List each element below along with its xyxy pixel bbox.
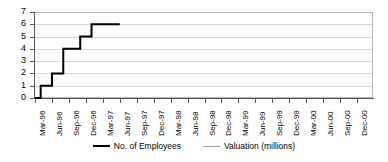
y-axis-tick bbox=[30, 12, 34, 13]
y-axis-tick bbox=[30, 37, 34, 38]
x-axis-tick-label: Sep-98 bbox=[209, 110, 217, 136]
plot-area bbox=[34, 12, 373, 98]
y-axis-tick-label: 0 bbox=[0, 93, 29, 102]
x-axis-tick-label: Jun-99 bbox=[259, 112, 267, 136]
legend-label-employees: No. of Employees bbox=[114, 142, 181, 151]
x-axis-tick bbox=[340, 99, 341, 103]
x-axis-tick bbox=[188, 99, 189, 103]
x-axis-tick-label: Dec-99 bbox=[293, 110, 301, 136]
x-axis-tick bbox=[221, 99, 222, 103]
gridline bbox=[35, 86, 372, 87]
x-axis-tick bbox=[35, 99, 36, 103]
y-axis-line bbox=[34, 12, 35, 99]
y-axis-tick-label: 1 bbox=[0, 81, 29, 90]
y-axis-tick-label: 6 bbox=[0, 19, 29, 28]
x-axis-tick bbox=[52, 99, 53, 103]
x-axis-tick-label: Dec-00 bbox=[361, 110, 369, 136]
x-axis-tick-label: Sep-99 bbox=[276, 110, 284, 136]
x-axis-tick-label: Mar-99 bbox=[242, 111, 250, 136]
x-axis-tick-label: Jun-00 bbox=[327, 112, 335, 136]
x-axis-tick bbox=[306, 99, 307, 103]
x-axis-tick bbox=[120, 99, 121, 103]
y-axis-tick bbox=[30, 49, 34, 50]
x-axis-tick bbox=[86, 99, 87, 103]
x-axis-tick bbox=[205, 99, 206, 103]
x-axis-tick-label: Dec-98 bbox=[225, 110, 233, 136]
x-axis-tick bbox=[272, 99, 273, 103]
x-axis-tick bbox=[154, 99, 155, 103]
x-axis-tick bbox=[69, 99, 70, 103]
x-axis-tick-label: Mar-96 bbox=[39, 111, 47, 136]
x-axis-tick bbox=[255, 99, 256, 103]
x-axis-tick-label: Dec-96 bbox=[90, 110, 98, 136]
x-axis-tick bbox=[357, 99, 358, 103]
x-axis-tick-label: Mar-97 bbox=[107, 111, 115, 136]
x-axis-tick bbox=[238, 99, 239, 103]
x-axis-tick-label: Mar-00 bbox=[310, 111, 318, 136]
y-axis-tick bbox=[30, 86, 34, 87]
x-axis-tick-label: Dec-97 bbox=[158, 110, 166, 136]
gridline bbox=[35, 61, 372, 62]
y-axis-tick bbox=[30, 24, 34, 25]
x-axis-tick-label: Jun-98 bbox=[192, 112, 200, 136]
y-axis-tick bbox=[30, 73, 34, 74]
x-axis-tick-label: Jun-96 bbox=[56, 112, 64, 136]
legend-label-valuation: Valuation (millions) bbox=[224, 142, 295, 151]
y-axis-tick-label: 2 bbox=[0, 68, 29, 77]
x-axis-tick-label: Sep-97 bbox=[141, 110, 149, 136]
chart-legend: No. of Employees Valuation (millions) bbox=[0, 139, 388, 153]
gridline bbox=[35, 24, 372, 25]
chart-container: 01234567 Mar-96Jun-96Sep-96Dec-96Mar-97J… bbox=[0, 0, 388, 162]
y-axis-labels: 01234567 bbox=[0, 0, 29, 162]
x-axis-tick-label: Mar-98 bbox=[175, 111, 183, 136]
x-axis-tick bbox=[137, 99, 138, 103]
x-axis-tick-label: Jun-97 bbox=[124, 112, 132, 136]
y-axis-tick-label: 3 bbox=[0, 56, 29, 65]
x-axis-tick bbox=[171, 99, 172, 103]
gridline bbox=[35, 73, 372, 74]
y-axis-tick bbox=[30, 61, 34, 62]
y-axis-tick-label: 7 bbox=[0, 7, 29, 16]
x-axis-tick bbox=[103, 99, 104, 103]
gridline bbox=[35, 49, 372, 50]
legend-swatch-employees-icon bbox=[93, 145, 110, 147]
legend-item-employees: No. of Employees bbox=[93, 142, 181, 151]
y-axis-tick-label: 4 bbox=[0, 44, 29, 53]
gridline bbox=[35, 37, 372, 38]
x-axis-tick-label: Sep-00 bbox=[344, 110, 352, 136]
legend-item-valuation: Valuation (millions) bbox=[203, 142, 295, 151]
x-axis-tick bbox=[323, 99, 324, 103]
y-axis-tick-label: 5 bbox=[0, 32, 29, 41]
legend-swatch-valuation-icon bbox=[203, 146, 220, 147]
x-axis-tick-label: Sep-96 bbox=[73, 110, 81, 136]
x-axis-tick bbox=[289, 99, 290, 103]
